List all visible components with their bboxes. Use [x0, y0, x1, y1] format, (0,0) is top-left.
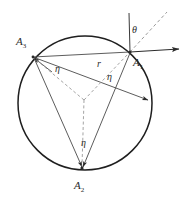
radius-label: r	[97, 59, 101, 69]
vertex-dot-a1	[128, 50, 131, 53]
dashed-radius-center-a2	[82, 100, 84, 166]
angle-label-eta-a1: η	[107, 72, 112, 82]
angle-label-eta-a2: η	[81, 138, 86, 148]
point-label-a2: A2	[74, 180, 84, 194]
vertical-reference-line	[129, 13, 130, 52]
vertex-dot-a2	[80, 166, 83, 169]
angle-label-theta: θ	[132, 25, 137, 35]
angle-label-eta-a3: η	[55, 64, 60, 74]
point-label-a1: A1	[133, 57, 143, 71]
radius-line-r	[33, 57, 148, 100]
chord-a3-a2	[34, 58, 82, 167]
geometry-figure	[0, 0, 186, 202]
point-label-a3: A3	[16, 36, 26, 50]
vertex-dot-a3	[32, 56, 35, 59]
main-circle	[18, 36, 152, 170]
chord-a3-a1	[33, 52, 130, 57]
horizontal-tangent-arrow	[130, 49, 179, 52]
